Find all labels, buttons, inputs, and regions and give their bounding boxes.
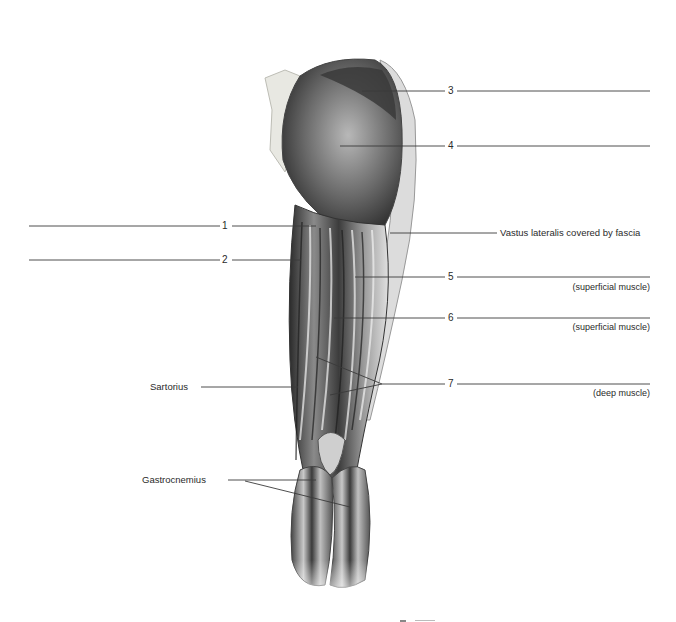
label-number-3: 3 [448,86,454,96]
label-number-6: 6 [448,313,454,323]
anatomy-figure: 1 2 3 4 5 6 7 (superficial muscle) (supe… [0,0,676,622]
note-label-5: (superficial muscle) [572,283,650,292]
vastus-lateralis-label: Vastus lateralis covered by fascia [500,228,640,238]
label-number-4: 4 [448,141,454,151]
note-label-6: (superficial muscle) [572,323,650,332]
label-number-7: 7 [448,379,454,389]
label-number-2: 2 [222,255,228,265]
label-number-5: 5 [448,272,454,282]
sartorius-label: Sartorius [150,382,188,392]
thigh-muscle-illustration [0,0,676,622]
label-number-1: 1 [222,221,228,231]
gastrocnemius-label: Gastrocnemius [142,475,206,485]
note-label-7: (deep muscle) [593,389,650,398]
